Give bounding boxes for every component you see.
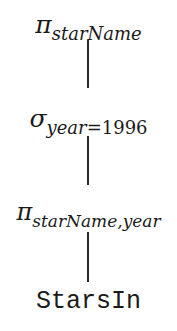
condition-attribute: year <box>47 117 87 138</box>
selection-year-node: σyear=1996 <box>0 104 177 133</box>
projection-starname-year-node: πstarName,year <box>0 198 177 226</box>
condition-value: 1996 <box>102 117 148 138</box>
tree-edge <box>87 136 89 185</box>
tree-edge <box>87 232 89 282</box>
projection-attributes: starName,year <box>32 211 160 231</box>
projection-attributes: starName <box>52 23 142 44</box>
projection-starname-node: πstarName <box>0 10 177 39</box>
selection-condition: year=1996 <box>47 117 148 138</box>
pi-operator: π <box>16 198 32 226</box>
relation-starsin: StarsIn <box>0 287 177 316</box>
condition-operator: = <box>87 117 102 138</box>
sigma-operator: σ <box>29 104 46 133</box>
tree-edge <box>87 40 89 88</box>
pi-operator: π <box>35 10 51 39</box>
